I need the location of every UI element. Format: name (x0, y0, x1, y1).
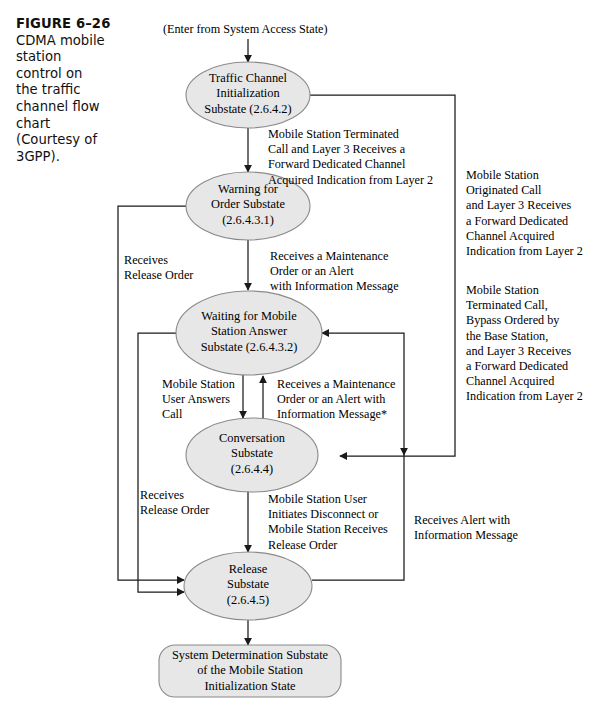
edge-label-disconnect-to-release: Mobile Station User Initiates Disconnect… (268, 492, 426, 553)
node-system-determination[interactable] (159, 645, 341, 697)
figure-page: FIGURE 6–26 CDMA mobile station control … (0, 0, 603, 706)
edge-label-receives-alert-with-info: Receives Alert with Information Message (414, 513, 564, 543)
edge-label-user-answers-call: Mobile Station User Answers Call (162, 377, 266, 423)
edge-label-terminated-call-bypass: Mobile Station Terminated Call, Bypass O… (466, 283, 600, 405)
edge-label-originated-call: Mobile Station Originated Call and Layer… (466, 168, 600, 259)
edge-label-maintenance-to-waiting: Receives a Maintenance Order or an Alert… (270, 249, 450, 295)
edge-label-receives-release-order-upper: Receives Release Order (124, 253, 228, 283)
edge-label-maintenance-to-conversation: Receives a Maintenance Order or an Alert… (277, 377, 453, 423)
node-traffic-channel-initialization[interactable] (186, 62, 310, 128)
edge-waiting-to-release-left (138, 333, 184, 592)
node-release[interactable] (184, 552, 312, 620)
edge-label-receives-release-order-lower: Receives Release Order (140, 488, 244, 518)
node-conversation[interactable] (186, 418, 318, 492)
node-waiting-for-mobile-station-answer[interactable] (176, 291, 322, 375)
edge-label-terminated-call-to-warning: Mobile Station Terminated Call and Layer… (268, 127, 483, 188)
entry-label: (Enter from System Access State) (163, 22, 328, 37)
